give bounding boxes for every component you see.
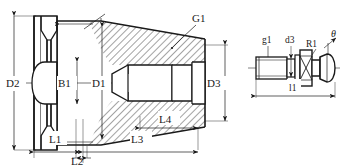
leader-g1-small: g1	[262, 35, 272, 57]
label-l2: L2	[71, 155, 83, 166]
leader-theta: θ	[324, 28, 336, 55]
pull-stud-head	[320, 54, 335, 82]
label-l1: L1	[49, 133, 61, 145]
dimension-d3: D3	[205, 45, 228, 121]
label-r1: R1	[306, 39, 317, 49]
label-d2: D2	[6, 77, 19, 89]
drawing-canvas: D2 B1 D1 G1	[0, 0, 345, 166]
pull-stud-collar	[287, 55, 300, 81]
technical-drawing-svg: D2 B1 D1 G1	[0, 0, 345, 166]
label-l3: L3	[131, 133, 144, 145]
label-l1-small: l1	[289, 83, 297, 93]
label-g1: G1	[192, 12, 205, 24]
label-d3-small: d3	[285, 35, 295, 45]
left-taper-shank-view: D2 B1 D1 G1	[4, 12, 228, 166]
dimension-l2: L2	[71, 155, 91, 166]
pull-stud-thread-shank	[256, 57, 287, 79]
drive-slot-b1	[32, 62, 57, 104]
label-l4: L4	[159, 113, 172, 125]
label-b1: B1	[58, 77, 71, 89]
right-pull-stud-view: g1 d3 R1 θ l1	[248, 28, 340, 98]
label-d3: D3	[207, 77, 221, 89]
pull-stud-neck	[312, 60, 320, 76]
label-g1-small: g1	[262, 35, 272, 45]
dimension-l1-small: l1	[256, 79, 335, 98]
label-theta: θ	[331, 28, 336, 39]
pull-stud-wrench-flange	[300, 50, 312, 86]
internal-bore-outline	[112, 62, 205, 104]
dimension-b1: B1	[57, 62, 77, 104]
label-d1: D1	[92, 77, 105, 89]
